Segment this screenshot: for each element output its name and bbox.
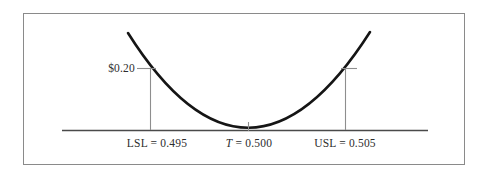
loss-function-plot: $0.20 LSL = 0.495 T = 0.500 USL = 0.505 [0, 0, 491, 178]
target-value-text: = 0.500 [232, 137, 272, 149]
quadratic-loss-curve [128, 32, 370, 128]
cost-label: $0.20 [108, 62, 135, 74]
usl-label: USL = 0.505 [314, 137, 376, 149]
target-label: T = 0.500 [226, 137, 272, 149]
loss-function-figure: $0.20 LSL = 0.495 T = 0.500 USL = 0.505 [0, 0, 491, 178]
lsl-label: LSL = 0.495 [127, 137, 187, 149]
